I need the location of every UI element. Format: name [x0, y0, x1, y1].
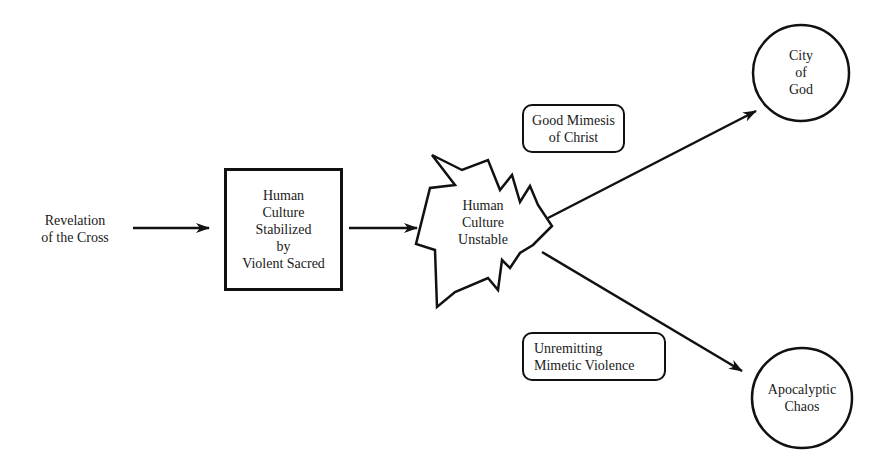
edge-label-unremitting-mimetic-violence: Unremitting Mimetic Violence: [522, 332, 666, 381]
node-apocalyptic-chaos: Apocalyptic Chaos: [757, 381, 847, 415]
node-text-line: Stabilized: [242, 221, 325, 238]
edge-text-line: Unremitting: [534, 340, 634, 357]
node-revelation-of-the-cross: Revelation of the Cross: [30, 212, 120, 246]
node-text-line: Human: [242, 187, 325, 204]
node-text-line: Violent Sacred: [242, 255, 325, 272]
node-text-line: Unstable: [443, 231, 523, 248]
edge-text-line: Mimetic Violence: [534, 357, 634, 374]
edge-label-good-mimesis: Good Mimesis of Christ: [522, 104, 625, 153]
node-text-line: Culture: [242, 204, 325, 221]
node-text-line: Chaos: [757, 398, 847, 415]
edge-label-text: Unremitting Mimetic Violence: [534, 340, 634, 374]
node-text-line: City: [771, 47, 831, 64]
edge-text-line: Good Mimesis: [532, 112, 615, 129]
node-text-line: Apocalyptic: [757, 381, 847, 398]
node-label: Human Culture Stabilized by Violent Sacr…: [242, 187, 325, 272]
node-text-line: by: [242, 238, 325, 255]
node-human-culture-unstable: Human Culture Unstable: [443, 197, 523, 248]
node-city-of-god: City of God: [771, 47, 831, 98]
node-text-line: Revelation: [30, 212, 120, 229]
node-text-line: Culture: [443, 214, 523, 231]
node-text-line: God: [771, 81, 831, 98]
edge-text-line: of Christ: [532, 129, 615, 146]
node-text-line: Human: [443, 197, 523, 214]
node-human-culture-stabilized: Human Culture Stabilized by Violent Sacr…: [224, 168, 343, 291]
node-text-line: of the Cross: [30, 229, 120, 246]
node-text-line: of: [771, 64, 831, 81]
edge-label-text: Good Mimesis of Christ: [532, 112, 615, 146]
